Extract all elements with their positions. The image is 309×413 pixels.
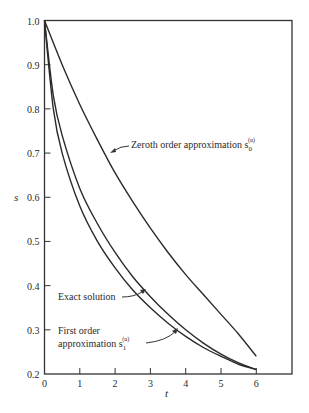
y-tick-label: 1.0 bbox=[27, 16, 40, 27]
exact-solution-annotation: Exact solution bbox=[58, 291, 116, 302]
y-tick-label: 0.7 bbox=[27, 148, 40, 159]
series-line-2 bbox=[45, 21, 257, 370]
zeroth-order-arrowhead-icon bbox=[110, 148, 116, 153]
y-tick-label: 0.6 bbox=[27, 192, 40, 203]
y-tick-label: 0.9 bbox=[27, 60, 40, 71]
y-tick-label: 0.3 bbox=[27, 325, 40, 336]
plot-frame bbox=[45, 21, 293, 375]
series-curves bbox=[45, 21, 257, 370]
x-axis-label: t bbox=[165, 387, 169, 399]
first-order-arrow bbox=[146, 331, 176, 343]
y-tick-label: 0.2 bbox=[27, 369, 40, 380]
x-tick-label: 4 bbox=[183, 378, 188, 389]
first-order-annotation-line1: First order bbox=[58, 325, 101, 336]
zeroth-order-annotation: Zeroth order approximation s0(u) bbox=[131, 137, 255, 153]
y-tick-label: 0.4 bbox=[27, 281, 40, 292]
x-tick-label: 5 bbox=[219, 378, 224, 389]
x-tick-label: 6 bbox=[254, 378, 259, 389]
chart: 0.20.30.40.50.60.70.80.91.0 0123456 s t … bbox=[0, 0, 309, 413]
x-tick-label: 2 bbox=[113, 378, 118, 389]
x-tick-label: 0 bbox=[42, 378, 47, 389]
y-tick-label: 0.5 bbox=[27, 236, 40, 247]
x-axis-ticks: 0123456 bbox=[42, 368, 259, 389]
x-tick-label: 1 bbox=[77, 378, 82, 389]
series-line-0 bbox=[45, 21, 257, 357]
first-order-annotation-line2: approximation s1(u) bbox=[58, 336, 129, 352]
y-tick-label: 0.8 bbox=[27, 104, 40, 115]
x-tick-label: 3 bbox=[148, 378, 153, 389]
y-axis-label: s bbox=[14, 191, 18, 203]
y-axis-ticks: 0.20.30.40.50.60.70.80.91.0 bbox=[27, 16, 51, 381]
